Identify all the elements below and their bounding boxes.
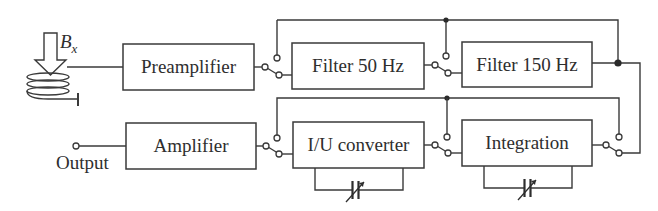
junction-dot xyxy=(614,59,621,66)
junction-dot xyxy=(443,17,448,22)
output-terminal[interactable] xyxy=(73,143,79,149)
sensor-label: Bx xyxy=(60,31,78,56)
switch-2[interactable] xyxy=(424,20,462,76)
integration-feedback-loop xyxy=(484,166,572,200)
switch-3[interactable] xyxy=(592,134,622,156)
switch-4[interactable] xyxy=(424,98,462,156)
sensor-coil: Bx xyxy=(27,31,78,106)
preamplifier-label: Preamplifier xyxy=(141,56,237,77)
variable-capacitor-icon xyxy=(518,179,536,200)
variable-capacitor-icon xyxy=(346,181,364,202)
filter-150hz-label: Filter 150 Hz xyxy=(476,54,577,75)
amplifier-label: Amplifier xyxy=(154,135,230,156)
signal-chain-diagram: Bx Preamplifier Filter 50 Hz Filter 150 … xyxy=(0,0,658,211)
switch-1[interactable] xyxy=(254,20,292,78)
output-label: Output xyxy=(56,152,110,173)
coil-icon xyxy=(27,73,78,99)
switch-5[interactable] xyxy=(256,135,293,157)
iu-feedback-loop xyxy=(315,168,403,202)
integration-label: Integration xyxy=(485,132,569,153)
iu-converter-label: I/U converter xyxy=(308,134,410,155)
filter-50hz-label: Filter 50 Hz xyxy=(312,55,404,76)
